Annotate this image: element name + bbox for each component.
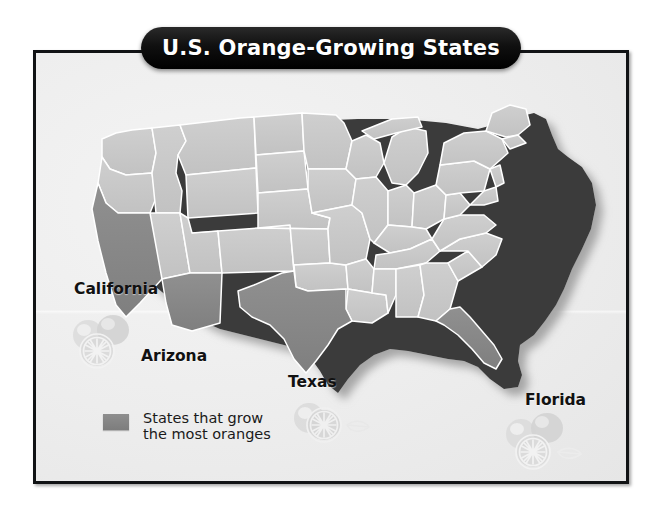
state-pennsylvania xyxy=(436,161,490,195)
orange-slice-icon xyxy=(516,435,550,469)
orange-cluster-florida xyxy=(499,408,589,484)
state-north-dakota xyxy=(254,113,304,155)
state-arizona-highlight xyxy=(162,273,222,331)
map-label-california: California xyxy=(74,280,158,298)
leaf-icon xyxy=(558,448,581,458)
state-colorado xyxy=(218,225,294,273)
us-map-container: California Arizona Texas Florida xyxy=(36,53,632,487)
legend-swatch xyxy=(103,414,129,430)
figure-frame: California Arizona Texas Florida xyxy=(33,50,629,484)
legend-line-2: the most oranges xyxy=(143,426,271,442)
state-indiana xyxy=(388,185,414,227)
title-banner: U.S. Orange-Growing States xyxy=(141,27,521,69)
orange-slice-icon xyxy=(307,408,341,442)
orange-cluster-texas xyxy=(289,398,375,460)
state-oklahoma xyxy=(294,263,348,291)
legend: States that grow the most oranges xyxy=(103,410,271,442)
map-label-florida: Florida xyxy=(525,391,586,409)
state-wyoming xyxy=(186,168,258,218)
state-wisconsin xyxy=(346,135,384,179)
orange-cluster-california xyxy=(64,309,150,383)
map-label-arizona: Arizona xyxy=(141,347,207,365)
page-title: U.S. Orange-Growing States xyxy=(162,36,500,60)
leaf-icon xyxy=(347,421,369,431)
map-label-texas: Texas xyxy=(288,373,337,391)
state-montana xyxy=(178,117,256,175)
state-arkansas xyxy=(346,259,374,293)
orange-fruit-icon xyxy=(506,413,563,467)
orange-slice-icon xyxy=(80,334,114,368)
legend-label: States that grow the most oranges xyxy=(143,410,271,442)
legend-line-1: States that grow xyxy=(143,410,271,426)
state-south-dakota xyxy=(256,151,308,193)
